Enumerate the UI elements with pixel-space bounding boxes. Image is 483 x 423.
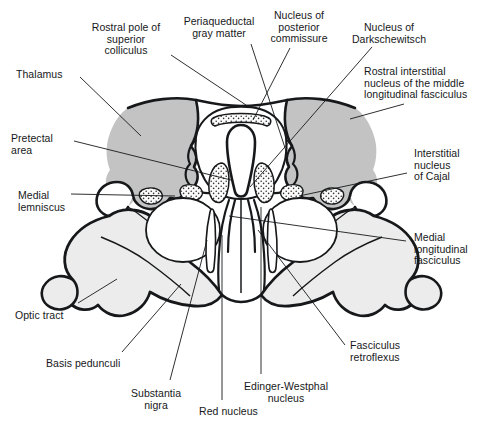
label-optic-tract: Optic tract [15, 310, 63, 322]
label-pretectal-area: Pretectal area [11, 133, 53, 156]
label-basis-pedunculi: Basis pedunculi [46, 358, 120, 370]
mlf-inner-left [228, 200, 235, 252]
label-nucleus-of-posterior-commissure: Nucleus of posterior commissure [270, 10, 327, 45]
mlf-inner-right [248, 200, 255, 252]
label-fasciculus-retroflexus: Fasciculus retroflexus [350, 340, 400, 363]
label-periaqueductal-gray-matter: Periaqueductal gray matter [184, 16, 255, 39]
label-nucleus-of-darkschewitsch: Nucleus of Darkschewitsch [352, 22, 426, 45]
optic-tract-left [42, 276, 78, 309]
figure-canvas: Rostral pole of superior colliculusPeria… [0, 0, 483, 423]
label-rostral-interstitial-nucleus-mlf: Rostral interstitial nucleus of the midd… [364, 66, 467, 101]
interpeduncular-notch [222, 295, 261, 302]
label-edinger-westphal-nucleus: Edinger-Westphal nucleus [244, 381, 328, 404]
label-rostral-pole-superior-colliculus: Rostral pole of superior colliculus [92, 22, 160, 57]
label-thalamus: Thalamus [16, 69, 63, 81]
label-substantia-nigra: Substantia nigra [131, 388, 181, 411]
label-medial-lemniscus: Medial lemniscus [18, 190, 65, 213]
optic-tract-right [406, 276, 442, 309]
label-interstitial-nucleus-of-cajal: Interstitial nucleus of Cajal [414, 148, 460, 183]
label-medial-longitudinal-fasciculus: Medial longitudinal fasciculus [414, 232, 468, 267]
label-red-nucleus: Red nucleus [199, 406, 258, 418]
